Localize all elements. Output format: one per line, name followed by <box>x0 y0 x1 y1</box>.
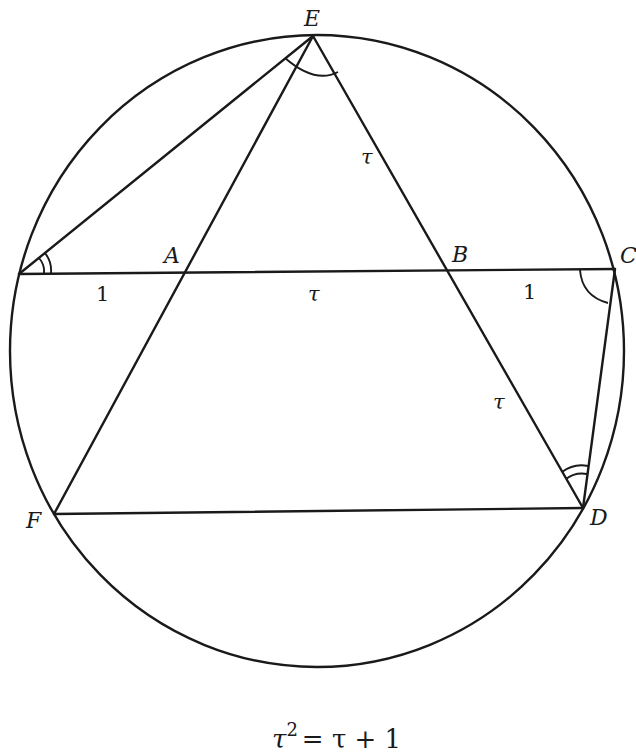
equation-rhs: = τ + 1 <box>302 724 401 754</box>
angle-mark-L-outer <box>45 253 51 273</box>
segment-label-BD: τ <box>493 390 505 414</box>
golden-ratio-equation: τ2= τ + 1 <box>272 719 401 754</box>
label-B: B <box>451 242 468 267</box>
chord-LC <box>19 269 615 274</box>
circumcircle <box>10 35 624 667</box>
svg-text:τ2= τ + 1: τ2= τ + 1 <box>272 719 401 754</box>
segment-label-EB: τ <box>361 145 373 169</box>
angle-mark-D-inner <box>566 474 587 479</box>
label-F: F <box>25 508 42 533</box>
angle-mark-D-outer <box>562 465 588 472</box>
segment-label-BC: 1 <box>523 280 536 304</box>
segment-label-LA: 1 <box>96 282 109 306</box>
segment-label-AB: τ <box>308 282 320 306</box>
label-D: D <box>589 505 608 530</box>
angle-mark-L-inner <box>39 258 44 273</box>
segment-EF <box>54 36 313 514</box>
label-E: E <box>303 6 320 31</box>
segment-FD <box>54 508 583 514</box>
angle-mark-C <box>580 270 608 303</box>
golden-ratio-circle-diagram: E A B C D F 1 τ 1 τ τ τ2= τ + 1 <box>0 0 636 754</box>
segment-EL <box>19 36 313 274</box>
segment-CD <box>583 269 615 508</box>
equation-base: τ <box>272 724 287 754</box>
equation-exponent: 2 <box>286 719 297 740</box>
label-C: C <box>620 243 636 268</box>
label-A: A <box>162 243 180 268</box>
